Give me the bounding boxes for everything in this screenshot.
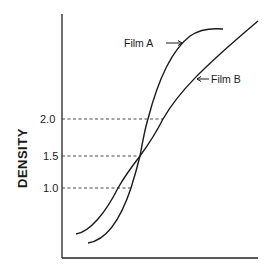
film-b-curve [76,21,258,234]
film-b-arrow-icon [197,77,209,82]
y-tick-1-0: 1.0 [43,182,58,194]
film-a-label: Film A [124,37,153,49]
y-tick-2-0: 2.0 [40,113,55,125]
film-b-label: Film B [211,73,241,85]
y-axis-label: DENSITY [15,128,30,188]
y-tick-1-5: 1.5 [43,150,58,162]
film-a-curve [88,29,223,243]
characteristic-curve-chart: 2.0 1.5 1.0 DENSITY Film A Film B [0,0,275,274]
film-a-arrow-icon [166,41,182,46]
